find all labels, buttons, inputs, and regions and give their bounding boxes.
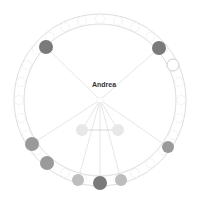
nodes: [25, 40, 179, 190]
ring-slot: [175, 114, 184, 123]
ring-slot: [60, 169, 69, 178]
ring-slot: [23, 60, 32, 69]
ring-slot: [17, 114, 26, 123]
node-n6[interactable]: [72, 174, 84, 186]
center-node[interactable]: [97, 97, 103, 103]
center-node-label: Andrea: [92, 81, 116, 88]
node-n10[interactable]: [76, 124, 88, 136]
ring-slot: [177, 96, 186, 105]
ring-slot: [114, 17, 123, 26]
node-n11[interactable]: [112, 124, 124, 136]
ring-slot: [169, 131, 178, 140]
ring-slot: [131, 23, 140, 32]
ring-slot: [60, 23, 69, 32]
node-n2[interactable]: [152, 41, 166, 55]
ring-slot: [131, 169, 140, 178]
ring-slot: [78, 17, 87, 26]
node-n4[interactable]: [25, 137, 39, 151]
node-n1[interactable]: [39, 40, 53, 54]
node-n7[interactable]: [93, 176, 107, 190]
edge-n1: [46, 47, 100, 100]
ring-slot: [96, 15, 105, 24]
ring-slot: [175, 78, 184, 87]
ring-slot: [146, 32, 155, 41]
ring-slot: [17, 78, 26, 87]
edge-n2: [100, 48, 159, 100]
node-n8[interactable]: [115, 174, 127, 186]
ring-slot: [15, 96, 24, 105]
ring-slot: [45, 32, 54, 41]
diagram-canvas: [0, 0, 199, 198]
node-n9[interactable]: [162, 141, 174, 153]
ring-slot: [146, 159, 155, 168]
node-n3[interactable]: [167, 59, 179, 71]
node-n5[interactable]: [40, 156, 54, 170]
network-diagram: Andrea: [0, 0, 199, 198]
